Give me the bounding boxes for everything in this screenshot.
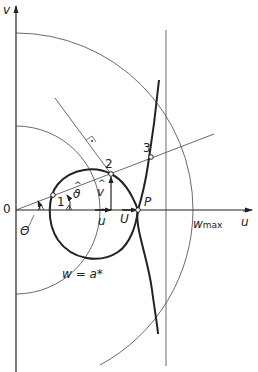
u-hat-vector-label-text: u xyxy=(98,215,106,227)
w-max-main: w xyxy=(193,217,203,231)
theta-label: Θ xyxy=(20,225,29,237)
diagram-canvas xyxy=(0,0,258,372)
w-max-label: wmax xyxy=(193,218,222,230)
axis-tick-a xyxy=(38,205,44,210)
point-p-label: P xyxy=(144,196,151,208)
ray-line xyxy=(16,134,214,210)
right-angle-marker xyxy=(86,136,96,142)
point-3-label: 3 xyxy=(143,142,151,154)
perpendicular-line xyxy=(55,98,111,174)
vartheta-label-text: ϑ xyxy=(73,188,80,200)
u-hat-vector-label: u xyxy=(98,215,106,227)
point-1-label: 1 xyxy=(57,196,65,208)
point-2 xyxy=(109,172,114,177)
point-1 xyxy=(51,193,56,198)
vartheta-label: ϑ xyxy=(73,188,80,200)
w-max-sub: max xyxy=(203,220,223,230)
v-hat-vector-label: v xyxy=(97,186,104,198)
w-a-star-label: w = a* xyxy=(62,268,103,280)
origin-label: 0 xyxy=(3,203,11,215)
v-hat-vector-label-text: v xyxy=(97,186,104,198)
right-angle-dot xyxy=(91,140,93,142)
v-axis-label-text: v xyxy=(3,4,10,16)
u-axis-label: u xyxy=(241,216,249,228)
point-3 xyxy=(149,155,154,160)
u-axis-label-text: u xyxy=(241,216,249,228)
point-2-label: 2 xyxy=(105,158,113,170)
point-p xyxy=(136,208,141,213)
w-max-circle xyxy=(16,33,193,365)
v-axis-label: v xyxy=(3,4,10,16)
u-vector-label: U xyxy=(120,213,129,225)
